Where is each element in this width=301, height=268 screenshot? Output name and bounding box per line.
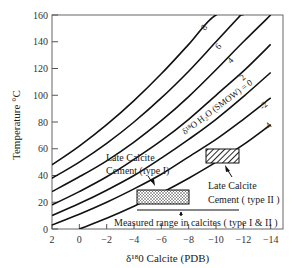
- arrow-icon: [225, 165, 230, 172]
- y-axis: 020406080100120140160: [33, 10, 58, 235]
- y-tick-label: 20: [38, 197, 48, 208]
- x-tick-label: −10: [208, 234, 224, 245]
- x-tick-label: −6: [156, 234, 167, 245]
- x-axis-title: δ¹⁸0 Calcite (PDB): [126, 252, 210, 265]
- y-tick-label: 0: [43, 224, 48, 235]
- y-tick-label: 100: [33, 90, 48, 101]
- chart-svg: 020406080100120140160 20−2−4−6−8−10−12−1…: [0, 0, 301, 268]
- arrow-icon: [179, 212, 183, 215]
- y-tick-label: 120: [33, 63, 48, 74]
- x-tick-label: −14: [263, 234, 279, 245]
- measured-label: Measured range in calcites ( type I & II…: [114, 217, 278, 229]
- type2-box: [206, 149, 239, 163]
- x-tick-label: 2: [50, 234, 55, 245]
- curve-8: [52, 13, 243, 165]
- type2-label-line1: Late Calcite: [208, 180, 257, 191]
- type1-box: [137, 190, 189, 204]
- y-tick-label: 80: [38, 117, 48, 128]
- x-tick-label: 0: [77, 234, 82, 245]
- x-tick-label: −12: [236, 234, 252, 245]
- curve-label-6: 6: [213, 41, 224, 51]
- curve-label-0: δ¹⁸O H₂O (SMOW) = 0: [180, 77, 255, 137]
- y-tick-label: 140: [33, 36, 48, 47]
- y-tick-label: 40: [38, 170, 48, 181]
- type1-label-line1: Late Calcite: [106, 152, 155, 163]
- x-tick-label: −4: [129, 234, 140, 245]
- x-tick-label: −2: [101, 234, 112, 245]
- y-axis-title: Temperature °C: [10, 90, 22, 160]
- type2-label-line2: Cement ( type II ): [208, 194, 280, 206]
- y-tick-label: 160: [33, 10, 48, 21]
- curve-label-4: 4: [225, 55, 236, 65]
- y-tick-label: 60: [38, 143, 48, 154]
- arrow-icon: [150, 179, 155, 186]
- type1-label-line2: Cement (type I): [106, 165, 169, 177]
- x-tick-label: −8: [183, 234, 194, 245]
